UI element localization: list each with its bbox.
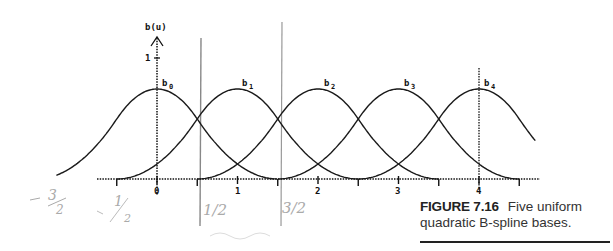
handwritten-minus-three-halves: 3 2 — [30, 187, 66, 217]
svg-text:b: b — [404, 78, 410, 88]
svg-text:2: 2 — [123, 212, 131, 225]
x-label-4: 4 — [476, 186, 482, 196]
svg-text:b: b — [484, 78, 490, 88]
x-label-1: 1 — [235, 186, 240, 196]
figure-number: FIGURE 7.16 — [420, 199, 499, 214]
handwritten-three-halves: 3/2 — [282, 199, 306, 217]
svg-text:1: 1 — [249, 83, 253, 91]
pen-line-half — [200, 38, 201, 226]
curve-b1 — [117, 89, 358, 179]
handwritten-squiggle — [210, 233, 270, 239]
svg-text:3: 3 — [48, 187, 57, 203]
y-tick-label: 1 — [145, 53, 150, 63]
x-label-2: 2 — [315, 186, 320, 196]
basis-curves — [56, 89, 535, 179]
x-label-3: 3 — [395, 186, 400, 196]
x-label-0: 0 — [154, 186, 159, 196]
curve-b0 — [56, 89, 277, 179]
figure-caption: FIGURE 7.16Five uniform quadratic B-spli… — [420, 199, 610, 231]
handwritten-minus-half: 1 2 — [97, 193, 131, 225]
curve-label-b3: b3 — [404, 78, 415, 91]
svg-text:b: b — [162, 78, 168, 88]
svg-text:2: 2 — [331, 83, 335, 91]
x-ticks — [117, 176, 520, 186]
curve-b4 — [358, 89, 535, 179]
svg-text:3: 3 — [411, 83, 415, 91]
svg-text:b: b — [324, 78, 330, 88]
svg-text:b: b — [242, 78, 248, 88]
svg-text:2: 2 — [55, 203, 64, 217]
curve-label-b0: b0 — [162, 78, 173, 91]
curve-b3 — [278, 89, 519, 179]
curve-label-b2: b2 — [324, 78, 335, 91]
curve-label-b4: b4 — [484, 78, 495, 91]
y-axis-label: b(u) — [145, 22, 167, 32]
handwritten-half: 1/2 — [203, 201, 227, 219]
curve-b2 — [197, 89, 438, 179]
caption-rule — [420, 241, 610, 243]
svg-text:0: 0 — [169, 83, 173, 91]
svg-text:4: 4 — [491, 83, 495, 91]
